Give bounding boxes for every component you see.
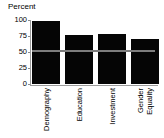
x-label-gender-equality-line2: Equality [145,88,154,115]
bar-demography [32,21,60,84]
y-tick-label-0: 0 [0,80,27,88]
plot-area [30,20,158,84]
x-label-investment-line1: Investment [108,88,117,125]
y-axis-tick-labels: 100 75 50 25 0 [0,20,27,84]
x-label-demography: Demography [32,86,60,138]
y-tick-label-50: 50 [0,48,27,56]
x-label-gender-equality: Gender Equality [131,86,159,138]
x-label-education: Education [65,86,93,138]
y-tick-label-100: 100 [0,16,27,24]
x-label-investment: Investment [98,86,126,138]
bar-investment [98,34,126,84]
reference-line-50 [32,50,155,52]
bar-chart: Percent 100 75 50 25 0 Demography Educat… [0,0,164,138]
x-label-gender-equality-line1: Gender [136,88,145,113]
x-axis-category-labels: Demography Education Investment Gender E… [30,86,158,138]
y-tick-label-75: 75 [0,32,27,40]
y-tick-label-25: 25 [0,64,27,72]
y-axis-title: Percent [8,2,36,11]
bar-education [65,35,93,84]
x-label-education-line1: Education [75,88,84,121]
x-label-demography-line1: Demography [42,88,51,131]
bar-gender-equality [131,39,159,84]
